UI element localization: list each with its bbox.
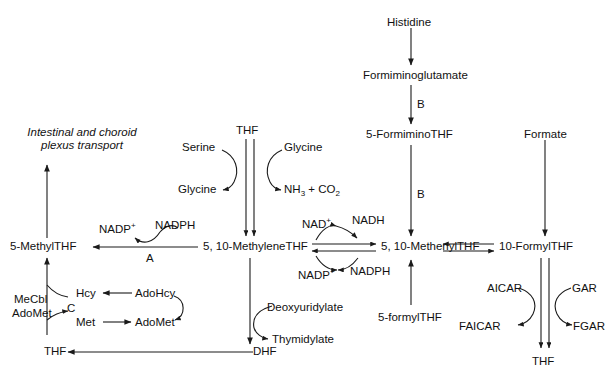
node-glycine-out: Glycine bbox=[178, 183, 216, 196]
curve-adomet-to-adohcy bbox=[174, 296, 183, 320]
node-ammonia-co2: NH3 + CO2 bbox=[284, 183, 340, 200]
node-5-10-methenylthf: 5, 10-MethenylTHF bbox=[381, 240, 479, 253]
enzyme-c-label: C bbox=[67, 302, 75, 314]
node-serine: Serine bbox=[182, 141, 215, 154]
node-dhf: DHF bbox=[253, 345, 277, 358]
cofactor-adomet: AdoMet bbox=[12, 307, 52, 320]
node-5-formylthf: 5-formylTHF bbox=[378, 311, 442, 324]
node-formiminoglutamate: Formiminoglutamate bbox=[363, 69, 468, 82]
intestinal-transport-line1: Intestinal and choroid bbox=[27, 126, 136, 138]
node-5-10-methylenethf: 5, 10-MethyleneTHF bbox=[203, 240, 308, 253]
intestinal-transport-label: Intestinal and choroid plexus transport bbox=[12, 126, 152, 152]
cofactor-nadp-plus-lower: NADP+ bbox=[298, 265, 335, 282]
nh-text: NH bbox=[284, 183, 301, 195]
node-5-formiminothf: 5-FormiminoTHF bbox=[366, 128, 453, 141]
node-10-formylthf: 10-FormylTHF bbox=[499, 240, 573, 253]
curve-glycine-out bbox=[223, 182, 234, 190]
cofactor-nad-plus: NAD+ bbox=[302, 214, 331, 231]
node-thymidylate: Thymidylate bbox=[272, 333, 334, 346]
node-thf-bottom-right: THF bbox=[532, 355, 554, 368]
curve-nadph-to-nadp bbox=[135, 232, 160, 242]
node-thf-bottom-left: THF bbox=[44, 345, 66, 358]
nadp-plus-left-charge: + bbox=[131, 221, 136, 230]
cofactor-nadph-left: NADPH bbox=[155, 219, 195, 232]
intestinal-transport-line2: plexus transport bbox=[41, 139, 123, 151]
curve-serine-in bbox=[222, 150, 237, 182]
cofactor-nadph-lower: NADPH bbox=[350, 265, 390, 278]
node-fgar: FGAR bbox=[573, 320, 605, 333]
curve-glycine-in bbox=[267, 150, 282, 182]
node-histidine: Histidine bbox=[387, 16, 431, 29]
nad-plus-charge: + bbox=[326, 216, 331, 225]
node-gar: GAR bbox=[572, 282, 597, 295]
node-adohcy: AdoHcy bbox=[135, 287, 175, 300]
node-5-methylthf: 5-MethylTHF bbox=[10, 240, 76, 253]
curve-gar-in bbox=[555, 288, 571, 314]
pathway-diagram: Intestinal and choroid plexus transport … bbox=[0, 0, 607, 377]
cofactor-mecbl: MeCbl bbox=[14, 293, 47, 306]
node-adomet: AdoMet bbox=[135, 316, 175, 329]
co2-sub: 2 bbox=[335, 189, 339, 198]
nadp-plus-lower-charge: + bbox=[330, 267, 335, 276]
node-faicar: FAICAR bbox=[459, 320, 501, 333]
nad-plus-text: NAD bbox=[302, 218, 326, 230]
curve-nh3-co2-out bbox=[270, 182, 281, 190]
curve-methyl-to-met-top bbox=[47, 285, 68, 297]
nadp-plus-lower-text: NADP bbox=[298, 269, 330, 281]
node-glycine-in: Glycine bbox=[284, 141, 322, 154]
curve-nad-to-nadh-right bbox=[336, 226, 357, 238]
nadp-plus-left-text: NADP bbox=[99, 223, 131, 235]
node-deoxyuridylate: Deoxyuridylate bbox=[267, 301, 343, 314]
cofactor-nadh: NADH bbox=[352, 214, 385, 227]
node-hcy: Hcy bbox=[76, 287, 96, 300]
node-aicar: AICAR bbox=[487, 282, 522, 295]
cofactor-nadp-plus-left: NADP+ bbox=[99, 219, 136, 236]
node-met: Met bbox=[76, 316, 95, 329]
enzyme-b-upper-label: B bbox=[417, 98, 425, 110]
curve-faicar-out bbox=[518, 314, 533, 325]
co-text: + CO bbox=[305, 183, 335, 195]
node-thf-top: THF bbox=[236, 124, 258, 137]
curve-thymidylate-out bbox=[254, 328, 268, 339]
curve-fgar-out bbox=[557, 314, 572, 325]
node-formate: Formate bbox=[524, 128, 567, 141]
enzyme-a-label: A bbox=[146, 252, 154, 264]
enzyme-b-lower-label: B bbox=[417, 188, 425, 200]
